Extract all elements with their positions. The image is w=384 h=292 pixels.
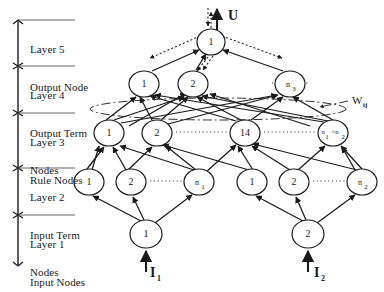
node-label-subscript: 1 — [325, 133, 329, 141]
node-label: n — [286, 80, 290, 89]
layer3-label-line1: Layer 3 — [30, 136, 83, 149]
weight-leader-line — [320, 101, 348, 107]
edges-layer2-to-layer3 — [87, 144, 362, 172]
node-label: 2 — [155, 127, 160, 138]
weight-label-subscript: ij — [363, 101, 367, 109]
annotation-output-U: U — [228, 8, 238, 23]
node-label: 14 — [240, 127, 250, 138]
node-layer3-n1xn2[interactable]: n 1 ×n 2 — [318, 120, 348, 146]
node-layer2b-n2[interactable]: n 2 — [347, 169, 377, 195]
node-label: 1 — [209, 36, 214, 47]
node-label-mid: ×n — [332, 128, 340, 135]
node-layer2a-n1[interactable]: n 1 — [184, 169, 214, 195]
node-layer3-2[interactable]: 2 — [142, 120, 172, 146]
output-label: U — [228, 8, 238, 23]
edges-layer3-to-layer4 — [106, 93, 333, 126]
node-layer5-output[interactable]: 1 — [197, 29, 225, 55]
edges-layer1-to-layer2 — [93, 195, 355, 223]
node-label: 1 — [142, 78, 147, 89]
node-label-subscript: 3 — [292, 85, 296, 93]
node-label: 1 — [250, 176, 255, 187]
layer2-label-line1: Layer 2 — [30, 191, 80, 204]
layer5-label-line1: Layer 5 — [30, 43, 88, 56]
node-layer3-1[interactable]: 1 — [94, 120, 124, 146]
node-label: 2 — [306, 228, 311, 239]
input-label-subscript: 1 — [157, 274, 161, 283]
node-label: 1 — [144, 228, 149, 239]
node-layer4-n3[interactable]: n 3 — [275, 71, 305, 97]
layer1-label-line2: Input Nodes — [30, 276, 85, 289]
weight-label: W — [352, 94, 363, 106]
node-layer1-2[interactable]: 2 — [292, 220, 324, 248]
layer1-label-line1: Layer 1 — [30, 238, 85, 251]
node-label: 2 — [191, 78, 196, 89]
annotation-input-I2: I 2 — [314, 265, 325, 283]
node-label-subscript: 2 — [364, 183, 368, 191]
annotation-weight-Wij: W ij — [352, 94, 367, 109]
node-label: n — [358, 178, 362, 187]
node-layer4-2[interactable]: 2 — [178, 71, 208, 97]
node-layer2a-2[interactable]: 2 — [116, 169, 146, 195]
input-label: I — [150, 265, 155, 280]
node-label-subscript2: 2 — [341, 133, 345, 141]
node-label: 1 — [107, 127, 112, 138]
node-layer2b-2[interactable]: 2 — [279, 169, 309, 195]
layer4-label-line1: Layer 4 — [30, 89, 87, 102]
node-label: n — [195, 178, 199, 187]
node-layer1-1[interactable]: 1 — [130, 220, 162, 248]
input-label: I — [314, 265, 319, 280]
node-label-subscript: 1 — [201, 183, 205, 191]
node-layer3-14[interactable]: 14 — [230, 120, 260, 146]
layer1-bracket-label: Layer 1 Input Nodes — [30, 213, 85, 292]
input-label-subscript: 2 — [321, 274, 325, 283]
node-layer2b-1[interactable]: 1 — [237, 169, 267, 195]
node-layer4-1[interactable]: 1 — [129, 71, 159, 97]
node-label: 2 — [292, 176, 297, 187]
node-label: 2 — [129, 176, 134, 187]
annotation-input-I1: I 1 — [150, 265, 161, 283]
